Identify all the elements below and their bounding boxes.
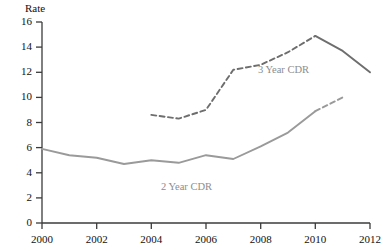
series-annotation-2-year-cdr: 2 Year CDR [161, 181, 212, 192]
y-tick-label-12: 12 [4, 66, 32, 77]
series-line-2-year-cdr-dashed [315, 97, 342, 111]
x-tick-label-2008: 2008 [235, 234, 287, 245]
y-tick-label-2: 2 [4, 192, 32, 203]
series-line-3-year-cdr-dashed [151, 36, 315, 119]
x-tick-label-2006: 2006 [180, 234, 232, 245]
x-tick-label-2004: 2004 [125, 234, 177, 245]
x-tick-label-2012: 2012 [344, 234, 385, 245]
chart-series [42, 36, 370, 164]
y-tick-label-8: 8 [4, 117, 32, 128]
x-axis-ticks [42, 223, 370, 229]
y-tick-label-4: 4 [4, 167, 32, 178]
x-tick-label-2010: 2010 [289, 234, 341, 245]
y-axis-title: Rate [25, 3, 45, 14]
series-line-3-year-cdr-solid [315, 36, 370, 72]
y-tick-label-16: 16 [4, 16, 32, 27]
y-tick-label-6: 6 [4, 142, 32, 153]
y-tick-label-10: 10 [4, 91, 32, 102]
y-tick-label-0: 0 [4, 217, 32, 228]
series-annotation-3-year-cdr: 3 Year CDR [258, 64, 309, 75]
y-tick-label-14: 14 [4, 41, 32, 52]
chart-axes [36, 22, 370, 229]
x-tick-label-2000: 2000 [16, 234, 68, 245]
y-axis-ticks [36, 22, 42, 223]
x-tick-label-2002: 2002 [71, 234, 123, 245]
